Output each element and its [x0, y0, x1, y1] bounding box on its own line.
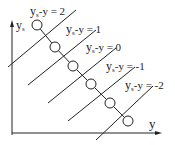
- diagram-canvas: ys y ys-y = 2ys-y = 1ys-y = 0ys-y = -1ys…: [0, 0, 175, 145]
- y-axis-arrow-icon: [155, 131, 162, 135]
- level-line-c1: [28, 30, 96, 85]
- node-circle: [105, 98, 115, 108]
- node-circle: [32, 20, 42, 30]
- y-axis-label: y: [149, 116, 156, 131]
- node-circle: [68, 61, 78, 71]
- level-line-label: ys-y = 0: [86, 40, 122, 55]
- node-circle: [86, 79, 96, 89]
- level-line-label: ys-y = -1: [106, 59, 145, 74]
- level-line-label: ys-y = -2: [125, 78, 164, 93]
- node-circle: [123, 116, 133, 126]
- level-line-label: ys-y = 1: [66, 22, 101, 37]
- ys-axis-label: ys: [16, 18, 25, 33]
- node-circle: [50, 42, 60, 52]
- circle-chain: [32, 20, 133, 126]
- ys-axis-arrow-icon: [10, 20, 14, 27]
- level-line-c-2: [96, 86, 153, 140]
- level-line-label: ys-y = 2: [30, 4, 65, 19]
